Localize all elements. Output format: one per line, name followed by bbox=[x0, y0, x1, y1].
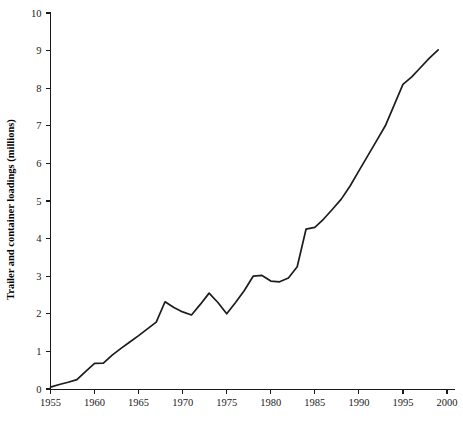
y-tick-label: 0 bbox=[36, 384, 41, 395]
y-tick-label: 4 bbox=[36, 233, 42, 244]
y-axis-ticks: 012345678910 bbox=[31, 8, 51, 395]
y-tick-label: 7 bbox=[36, 120, 41, 131]
y-tick-label: 1 bbox=[36, 346, 41, 357]
x-tick-label: 1980 bbox=[260, 397, 281, 408]
y-tick-label: 9 bbox=[36, 45, 41, 56]
y-tick-label: 2 bbox=[36, 308, 41, 319]
y-tick-label: 3 bbox=[36, 271, 41, 282]
x-tick-label: 1970 bbox=[172, 397, 193, 408]
x-tick-label: 2000 bbox=[437, 397, 458, 408]
x-tick-label: 1985 bbox=[304, 397, 325, 408]
x-tick-label: 1975 bbox=[216, 397, 237, 408]
x-tick-label: 1955 bbox=[40, 397, 61, 408]
x-tick-label: 1960 bbox=[84, 397, 105, 408]
data-series-line bbox=[51, 50, 439, 387]
y-tick-label: 5 bbox=[36, 196, 41, 207]
line-chart: Trailer and container loadings (millions… bbox=[0, 0, 463, 423]
y-axis-title: Trailer and container loadings (millions… bbox=[5, 119, 17, 300]
y-tick-label: 6 bbox=[36, 158, 41, 169]
x-tick-label: 1995 bbox=[392, 397, 413, 408]
y-tick-label: 10 bbox=[31, 8, 42, 19]
y-tick-label: 8 bbox=[36, 83, 41, 94]
x-tick-label: 1965 bbox=[128, 397, 149, 408]
chart-figure: Trailer and container loadings (millions… bbox=[0, 0, 463, 423]
x-axis-ticks: 1955196019651970197519801985199019952000 bbox=[40, 389, 458, 408]
x-tick-label: 1990 bbox=[348, 397, 369, 408]
